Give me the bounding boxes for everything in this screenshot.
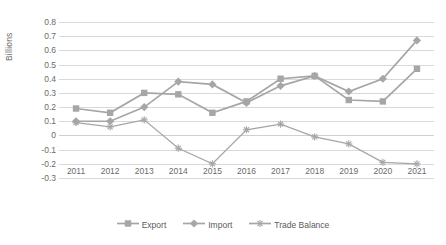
x-axis-tick-label: 2014 (169, 166, 188, 176)
data-point-marker-star (175, 145, 182, 152)
legend-swatch-star-icon (249, 219, 271, 230)
data-point-marker-square (209, 110, 215, 116)
x-axis-tick-label: 2015 (203, 166, 222, 176)
data-point-marker-square (380, 98, 386, 104)
line-chart: Billions 0.80.70.60.50.40.30.20.10-0.1-0… (0, 0, 446, 245)
data-point-marker-square (175, 91, 181, 97)
data-point-marker-diamond (276, 82, 284, 90)
legend-item-export[interactable]: Export (117, 219, 167, 230)
data-point-marker-star (277, 121, 284, 128)
y-axis-tick-label: 0.6 (12, 45, 56, 55)
data-point-marker-square (107, 110, 113, 116)
data-point-marker-star (141, 116, 148, 123)
data-point-marker-star (311, 133, 318, 140)
y-axis-tick-labels: 0.80.70.60.50.40.30.20.10-0.1-0.2-0.3 (12, 0, 56, 245)
data-point-marker-star (72, 119, 79, 126)
data-point-marker-square (346, 97, 352, 103)
y-axis-tick-label: 0.7 (12, 31, 56, 41)
x-axis-tick-label: 2011 (67, 166, 85, 176)
data-point-marker-star (379, 159, 386, 166)
x-axis-tick-label: 2013 (135, 166, 154, 176)
data-point-marker-star (257, 220, 264, 227)
data-point-marker-diamond (208, 80, 216, 88)
data-point-marker-star (243, 126, 250, 133)
data-point-marker-square (277, 76, 283, 82)
data-point-marker-star (107, 123, 114, 130)
y-axis-tick-label: 0.8 (12, 17, 56, 27)
series-trade-balance (72, 116, 420, 167)
legend-swatch-square-icon (117, 219, 139, 230)
x-axis-tick-label: 2020 (373, 166, 392, 176)
y-axis-tick-label: -0.2 (12, 159, 56, 169)
series-import (72, 36, 421, 125)
legend-label: Trade Balance (274, 220, 329, 230)
legend-label: Import (208, 220, 232, 230)
plot-area (59, 22, 434, 178)
data-point-marker-square (414, 66, 420, 72)
legend-swatch-diamond-icon (183, 219, 205, 230)
data-point-marker-star (345, 140, 352, 147)
x-axis-tick-labels: 2011201220132014201520162017201820192020… (59, 166, 434, 182)
x-axis-tick-label: 2018 (305, 166, 324, 176)
series-export (73, 66, 420, 116)
x-axis-tick-label: 2021 (407, 166, 426, 176)
chart-legend: ExportImportTrade Balance (0, 219, 446, 230)
y-axis-tick-label: 0.5 (12, 60, 56, 70)
series-layer (59, 22, 434, 178)
y-axis-tick-label: -0.1 (12, 145, 56, 155)
data-point-marker-square (124, 220, 130, 226)
legend-item-import[interactable]: Import (183, 219, 232, 230)
legend-item-trade-balance[interactable]: Trade Balance (249, 219, 329, 230)
data-point-marker-square (141, 90, 147, 96)
y-axis-tick-label: 0.3 (12, 88, 56, 98)
y-axis-tick-label: 0 (12, 130, 56, 140)
data-point-marker-diamond (345, 87, 353, 95)
x-axis-tick-label: 2017 (271, 166, 290, 176)
data-point-marker-diamond (190, 219, 198, 227)
legend-label: Export (142, 220, 167, 230)
data-point-marker-square (73, 105, 79, 111)
y-axis-tick-label: 0.1 (12, 116, 56, 126)
y-axis-tick-label: -0.3 (12, 173, 56, 183)
x-axis-tick-label: 2016 (237, 166, 256, 176)
y-axis-tick-label: 0.2 (12, 102, 56, 112)
y-axis-tick-label: 0.4 (12, 74, 56, 84)
series-line (76, 40, 417, 121)
x-axis-tick-label: 2012 (101, 166, 120, 176)
x-axis-tick-label: 2019 (339, 166, 358, 176)
